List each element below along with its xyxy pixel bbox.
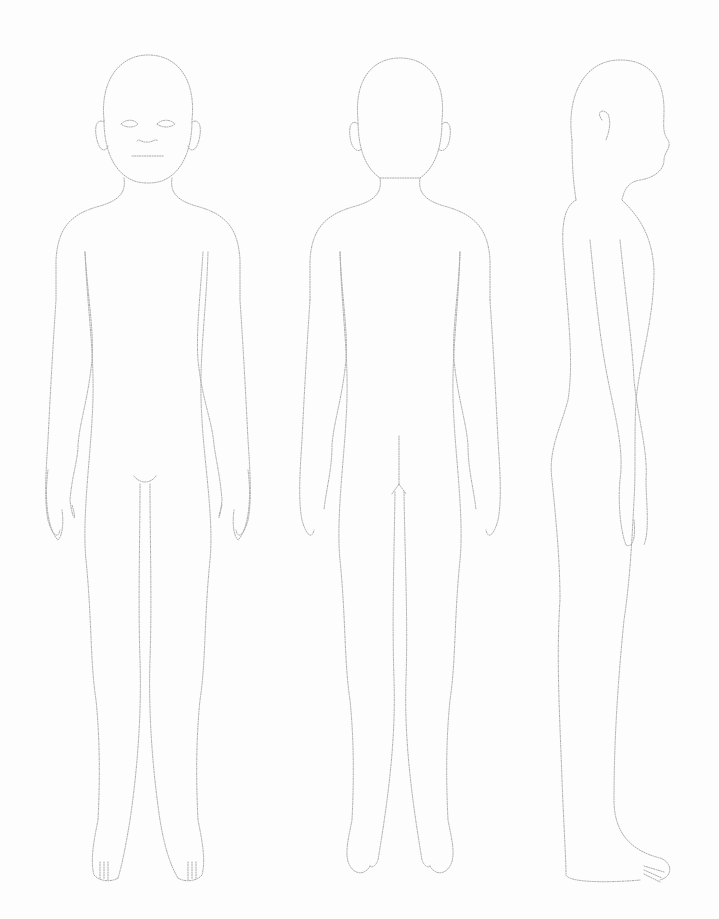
front-view bbox=[46, 55, 251, 881]
back-view bbox=[300, 58, 501, 873]
body-outline-drawing bbox=[0, 0, 719, 919]
side-view bbox=[551, 60, 670, 882]
